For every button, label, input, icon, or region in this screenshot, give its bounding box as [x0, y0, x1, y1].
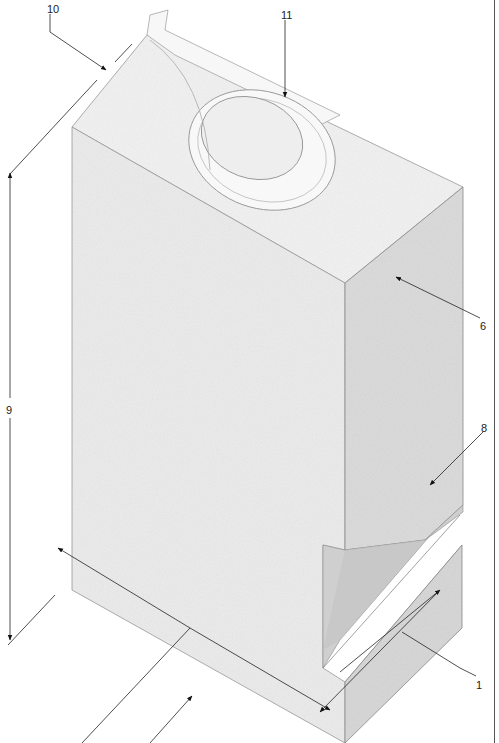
- callout-label-6: 6: [480, 321, 486, 332]
- callout-label-10: 10: [47, 4, 59, 15]
- callout-label-9: 9: [6, 405, 12, 416]
- callout-label-8: 8: [481, 423, 487, 434]
- type-sort-drawing: [0, 0, 499, 743]
- callout-label-11: 11: [281, 10, 292, 21]
- type-sort-illustration: 10 11 6 9 8 1: [0, 0, 499, 743]
- callout-label-1: 1: [476, 680, 482, 691]
- page-edge-line: [494, 0, 495, 743]
